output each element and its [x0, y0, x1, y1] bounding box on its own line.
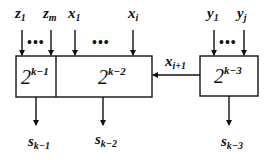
input-label-xi: xi [128, 6, 138, 23]
input-label-x1: x1 [68, 6, 81, 23]
output-label-s-k-1: sk−1 [28, 134, 50, 151]
ellipsis-x: ••• [92, 36, 110, 50]
input-label-zm: zm [43, 6, 57, 23]
ellipsis-y: ••• [219, 36, 237, 50]
block-label-2: 2k−2 [98, 66, 126, 87]
ellipsis-z: ••• [27, 36, 45, 50]
input-label-y1: y1 [207, 6, 219, 23]
block-label-1: 2k−1 [21, 66, 49, 87]
block-label-3: 2k−3 [214, 65, 242, 86]
input-label-z1: z1 [15, 6, 26, 23]
output-label-s-k-3: sk−3 [221, 134, 243, 151]
carry-label: xi+1 [165, 54, 186, 71]
input-label-yj: yj [237, 6, 246, 23]
output-label-s-k-2: sk−2 [95, 132, 117, 149]
